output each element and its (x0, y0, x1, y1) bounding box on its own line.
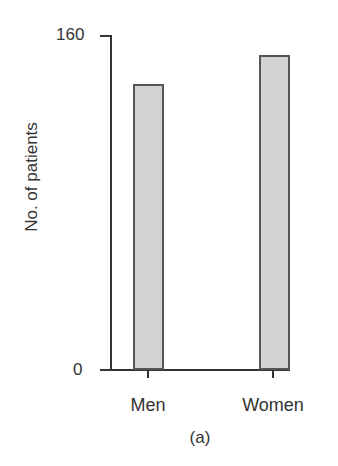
figure-caption: (a) (190, 428, 211, 448)
bar-chart: No. of patients 160 0 Men Women (a) (0, 0, 338, 466)
x-label-men: Men (130, 395, 165, 416)
y-axis (110, 35, 112, 371)
bar-men (133, 84, 164, 370)
x-label-women: Women (242, 395, 304, 416)
x-tick-women (272, 370, 274, 378)
x-tick-men (147, 370, 149, 378)
y-axis-top-tick (100, 35, 111, 37)
bar-women (259, 55, 290, 370)
y-axis-label: No. of patients (22, 122, 42, 232)
y-tick-max: 160 (56, 25, 84, 45)
y-tick-min: 0 (73, 360, 82, 380)
